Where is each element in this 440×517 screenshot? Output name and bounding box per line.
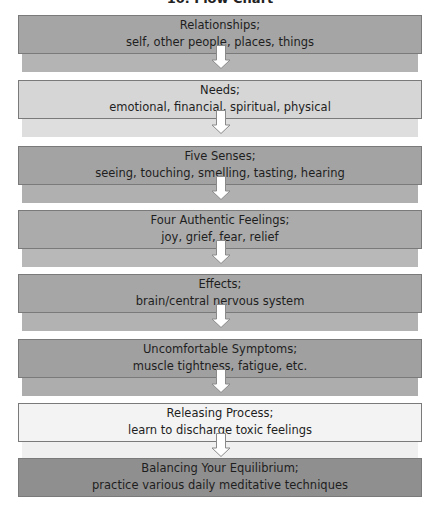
down-arrow-icon <box>211 369 231 393</box>
down-arrow-icon <box>211 304 231 328</box>
page-title: 10. Flow Chart <box>0 0 440 6</box>
step-heading: Balancing Your Equilibrium; <box>19 460 421 477</box>
down-arrow-icon <box>211 110 231 134</box>
step-heading: Needs; <box>19 82 421 99</box>
step-heading: Releasing Process; <box>19 405 421 422</box>
down-arrow-icon <box>211 433 231 457</box>
step-heading: Five Senses; <box>19 148 421 165</box>
step-heading: Four Authentic Feelings; <box>19 212 421 229</box>
down-arrow-icon <box>211 176 231 200</box>
step-detail: practice various daily meditative techni… <box>19 477 421 494</box>
step-heading: Relationships; <box>19 17 421 34</box>
down-arrow-icon <box>211 45 231 69</box>
down-arrow-icon <box>211 240 231 264</box>
step-heading: Uncomfortable Symptoms; <box>19 341 421 358</box>
step-heading: Effects; <box>19 276 421 293</box>
step-box: Balancing Your Equilibrium; practice var… <box>18 458 422 497</box>
